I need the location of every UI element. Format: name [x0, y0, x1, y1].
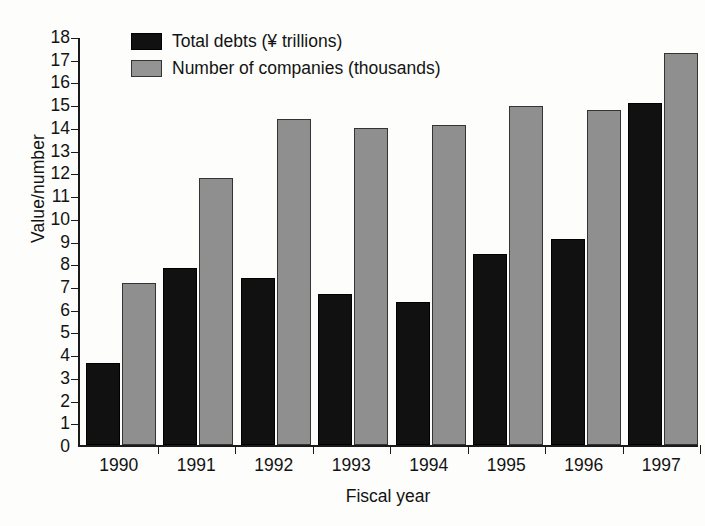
- x-tick-label: 1992: [239, 455, 309, 476]
- bar-1991-series-0: [163, 268, 197, 445]
- y-tick-label: 14: [30, 120, 70, 138]
- y-tick-label: 13: [30, 143, 70, 161]
- y-tick-label: 0: [30, 438, 70, 456]
- y-tick-label: 18: [30, 29, 70, 47]
- y-tick-mark: [71, 152, 80, 153]
- legend-label: Number of companies (thousands): [172, 58, 440, 79]
- bar-1996-series-1: [587, 110, 621, 445]
- y-tick-mark: [71, 83, 80, 84]
- gray-square-swatch: [131, 60, 162, 77]
- x-tick-mark: [235, 445, 236, 454]
- x-tick-label: 1993: [316, 455, 386, 476]
- y-tick-label: 17: [30, 52, 70, 70]
- x-tick-mark: [390, 445, 391, 454]
- x-tick-label: 1996: [549, 455, 619, 476]
- x-tick-mark: [158, 445, 159, 454]
- x-tick-label: 1990: [84, 455, 154, 476]
- y-axis-tick-labels: 0123456789101112131415161718: [30, 26, 70, 458]
- x-tick-mark: [468, 445, 469, 454]
- bar-1990-series-1: [122, 283, 156, 445]
- legend-entry-1: Number of companies (thousands): [131, 55, 440, 82]
- x-tick-mark: [313, 445, 314, 454]
- y-tick-mark: [71, 288, 80, 289]
- bar-1993-series-0: [318, 294, 352, 445]
- y-tick-mark: [71, 333, 80, 334]
- bar-1991-series-1: [199, 178, 233, 445]
- y-tick-mark: [71, 265, 80, 266]
- y-tick-label: 16: [30, 75, 70, 93]
- y-tick-label: 11: [30, 188, 70, 206]
- y-tick-mark: [71, 106, 80, 107]
- y-tick-label: 3: [30, 370, 70, 388]
- x-tick-mark: [623, 445, 624, 454]
- y-tick-label: 12: [30, 166, 70, 184]
- y-tick-mark: [71, 311, 80, 312]
- bar-1994-series-0: [396, 302, 430, 445]
- y-tick-mark: [71, 243, 80, 244]
- bar-1990-series-0: [86, 363, 120, 445]
- x-tick-label: 1995: [471, 455, 541, 476]
- y-tick-mark: [71, 61, 80, 62]
- y-tick-label: 1: [30, 416, 70, 434]
- x-tick-mark: [545, 445, 546, 454]
- bar-1992-series-0: [241, 278, 275, 445]
- y-tick-label: 10: [30, 211, 70, 229]
- y-tick-mark: [71, 197, 80, 198]
- y-tick-mark: [71, 220, 80, 221]
- plot-area: [78, 38, 698, 447]
- bar-1995-series-0: [473, 254, 507, 445]
- y-tick-label: 15: [30, 97, 70, 115]
- bar-1996-series-0: [551, 239, 585, 445]
- bar-1994-series-1: [432, 125, 466, 445]
- bar-chart: Value/number 012345678910111213141516171…: [0, 0, 705, 526]
- y-tick-label: 6: [30, 302, 70, 320]
- y-tick-mark: [71, 129, 80, 130]
- y-tick-mark: [71, 356, 80, 357]
- y-tick-label: 8: [30, 256, 70, 274]
- x-tick-label: 1997: [626, 455, 696, 476]
- x-tick-label: 1994: [394, 455, 464, 476]
- x-axis-title: Fiscal year: [78, 486, 698, 507]
- y-tick-mark: [71, 379, 80, 380]
- chart-legend: Total debts (¥ trillions)Number of compa…: [131, 28, 440, 82]
- bar-1997-series-0: [628, 103, 662, 445]
- y-tick-label: 4: [30, 347, 70, 365]
- x-axis-tick-labels: 19901991199219931994199519961997: [78, 455, 698, 481]
- x-tick-mark: [700, 445, 701, 454]
- y-tick-label: 9: [30, 234, 70, 252]
- bar-1997-series-1: [664, 53, 698, 445]
- y-tick-label: 2: [30, 393, 70, 411]
- legend-label: Total debts (¥ trillions): [172, 31, 342, 52]
- y-tick-label: 5: [30, 325, 70, 343]
- y-tick-mark: [71, 174, 80, 175]
- y-tick-mark: [71, 402, 80, 403]
- black-square-swatch: [131, 33, 162, 50]
- bar-1995-series-1: [509, 106, 543, 445]
- bar-1992-series-1: [277, 119, 311, 445]
- y-tick-mark: [71, 38, 80, 39]
- legend-entry-0: Total debts (¥ trillions): [131, 28, 440, 55]
- y-tick-mark: [71, 424, 80, 425]
- bar-1993-series-1: [354, 128, 388, 445]
- y-tick-label: 7: [30, 279, 70, 297]
- x-tick-label: 1991: [161, 455, 231, 476]
